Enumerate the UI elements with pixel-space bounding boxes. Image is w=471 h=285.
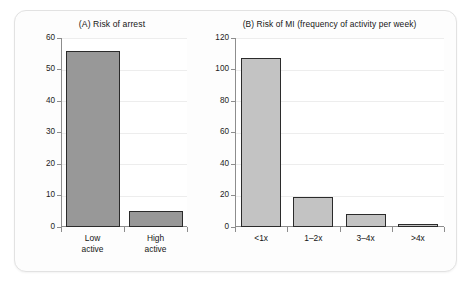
chart-title-b: (B) Risk of MI (frequency of activity pe… (201, 19, 458, 29)
bar (293, 197, 333, 227)
y-tick-label: 100 (215, 64, 229, 73)
y-tick-label: 20 (46, 159, 55, 168)
panels-row: (A) Risk of arrest 0102030405060 Lowacti… (15, 11, 456, 271)
bar-slot (61, 38, 124, 227)
plot-wrap-a: 0102030405060 LowactiveHighactive (61, 38, 187, 227)
y-tick-label: 120 (215, 33, 229, 42)
y-tick-label: 60 (46, 33, 55, 42)
x-axis-label: Lowactive (61, 233, 124, 254)
x-axis-labels-a: LowactiveHighactive (61, 233, 187, 254)
x-axis-label-line: active (61, 244, 124, 255)
y-tick-label: 0 (224, 222, 229, 231)
x-axis-label-line: >4x (392, 233, 444, 244)
x-axis-label: Highactive (124, 233, 187, 254)
bar (66, 51, 120, 227)
x-axis-label-line: 3–4x (340, 233, 392, 244)
x-axis-label: 1–2x (287, 233, 339, 244)
plot-wrap-b: 020406080100120 <1x1–2x3–4x>4x (235, 38, 444, 227)
x-tick-mark (444, 227, 445, 232)
y-tick-label: 80 (220, 96, 229, 105)
chart-panel-a: (A) Risk of arrest 0102030405060 Lowacti… (23, 11, 201, 271)
y-tick-label: 40 (220, 159, 229, 168)
y-tick-label: 30 (46, 127, 55, 136)
y-tick-label: 10 (46, 190, 55, 199)
x-axis-label-line: <1x (235, 233, 287, 244)
bar (241, 58, 281, 227)
figure-root: (A) Risk of arrest 0102030405060 Lowacti… (0, 0, 471, 285)
bar-slot (392, 38, 444, 227)
bar-slot (235, 38, 287, 227)
x-tick-mark (340, 227, 341, 232)
y-tick-label: 40 (46, 96, 55, 105)
bar (398, 224, 438, 227)
bar-slot (287, 38, 339, 227)
x-tick-mark (124, 227, 125, 232)
x-axis-labels-b: <1x1–2x3–4x>4x (235, 233, 444, 244)
bars-layer-a (61, 38, 187, 227)
x-axis-label: <1x (235, 233, 287, 244)
bar (129, 211, 183, 227)
y-tick-label: 0 (50, 222, 55, 231)
x-axis-label-line: active (124, 244, 187, 255)
x-tick-mark (235, 227, 236, 232)
chart-panel-b: (B) Risk of MI (frequency of activity pe… (201, 11, 458, 271)
x-tick-mark (287, 227, 288, 232)
bars-layer-b (235, 38, 444, 227)
bar (346, 214, 386, 227)
x-tick-mark (61, 227, 62, 232)
figure-panel: (A) Risk of arrest 0102030405060 Lowacti… (14, 10, 457, 272)
x-axis-label-line: High (124, 233, 187, 244)
y-tick-label: 50 (46, 64, 55, 73)
x-tick-mark (187, 227, 188, 232)
x-axis-label-line: Low (61, 233, 124, 244)
x-axis-label-line: 1–2x (287, 233, 339, 244)
y-tick-label: 60 (220, 127, 229, 136)
bar-slot (340, 38, 392, 227)
y-tick-label: 20 (220, 190, 229, 199)
chart-title-a: (A) Risk of arrest (23, 19, 201, 29)
x-tick-mark (392, 227, 393, 232)
x-axis-label: 3–4x (340, 233, 392, 244)
bar-slot (124, 38, 187, 227)
x-axis-label: >4x (392, 233, 444, 244)
